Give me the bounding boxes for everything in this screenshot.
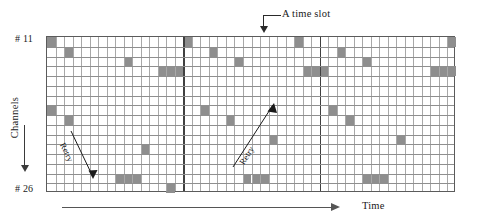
time-axis-arrow-stem — [62, 207, 334, 208]
figure-canvas: A time slot Channels # 11 # 26 Time Retr… — [0, 0, 481, 224]
channel-last-label: # 26 — [15, 183, 33, 194]
channels-axis-arrow-icon — [21, 165, 29, 172]
retry-arrows-svg — [47, 37, 456, 193]
time-slot-leader-line — [263, 15, 281, 16]
channel-first-label: # 11 — [15, 33, 33, 44]
time-slot-annotation-label: A time slot — [282, 8, 330, 19]
time-axis-arrow-icon — [331, 203, 340, 211]
slot-grid: Retry Retry — [46, 36, 455, 192]
time-axis-label: Time — [362, 200, 385, 211]
channels-axis-arrow-stem — [24, 125, 25, 167]
channels-axis-label: Channels — [9, 97, 20, 138]
time-slot-arrow-icon — [260, 26, 268, 33]
slot-grid-annotations: Retry Retry — [47, 37, 454, 191]
